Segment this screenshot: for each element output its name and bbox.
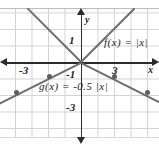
y-tick-label-1: 1 <box>69 34 75 46</box>
x-axis-label: x <box>148 64 153 75</box>
x-axis-left-arrow-icon <box>0 58 7 66</box>
data-point <box>14 90 19 95</box>
absolute-value-graph-figure: -3 3 1 -1 -3 x y f(x) = |x| g(x) = -0.5 … <box>0 0 159 146</box>
x-axis-right-arrow-icon <box>152 58 159 66</box>
y-tick-label-neg3: -3 <box>66 101 75 113</box>
y-axis-line <box>81 13 83 138</box>
f-equation-label: f(x) = |x| <box>104 36 148 48</box>
y-axis-label: y <box>85 14 89 25</box>
g-equation-label: g(x) = -0.5 |x| <box>39 80 108 92</box>
data-point <box>145 90 150 95</box>
y-axis-up-arrow-icon <box>77 8 85 15</box>
data-point <box>47 74 52 79</box>
x-tick-label-3: 3 <box>112 64 118 76</box>
x-tick-label-neg3: -3 <box>19 64 28 76</box>
y-axis-down-arrow-icon <box>77 137 85 144</box>
y-tick-label-neg1: -1 <box>66 68 75 80</box>
